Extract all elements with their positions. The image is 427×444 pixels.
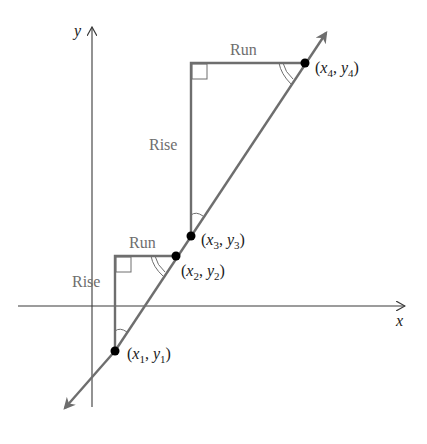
angle-arc-bottom — [191, 213, 203, 216]
large-rise-label: Rise — [149, 136, 177, 153]
point-4-label: (x4, y4) — [315, 59, 359, 79]
point-1 — [111, 347, 120, 356]
right-angle-marker — [192, 64, 207, 79]
point-2 — [172, 252, 181, 261]
angle-arc-double-outer — [279, 63, 291, 84]
small-triangle: Rise Run — [72, 234, 176, 351]
y-axis-label: y — [72, 22, 82, 40]
small-rise-label: Rise — [72, 273, 100, 290]
x-axis-label: x — [395, 312, 403, 329]
point-3 — [187, 232, 196, 241]
point-1-label: (x1, y1) — [127, 345, 171, 365]
point-3-label: (x3, y3) — [201, 231, 245, 251]
right-angle-marker — [116, 257, 131, 272]
point-2-label: (x2, y2) — [181, 262, 225, 282]
angle-arc-bottom — [115, 329, 127, 332]
slope-diagram: x y Rise Run Rise Run (x1, y1) (x2, y2) … — [0, 0, 427, 444]
secant-line-main — [115, 33, 326, 351]
large-run-label: Run — [230, 41, 257, 58]
large-triangle: Rise Run — [149, 41, 305, 236]
point-4 — [301, 59, 310, 68]
angle-arc-double-outer — [151, 256, 163, 276]
axes: x y — [18, 22, 405, 407]
secant-line — [65, 351, 115, 408]
small-run-label: Run — [129, 234, 156, 251]
